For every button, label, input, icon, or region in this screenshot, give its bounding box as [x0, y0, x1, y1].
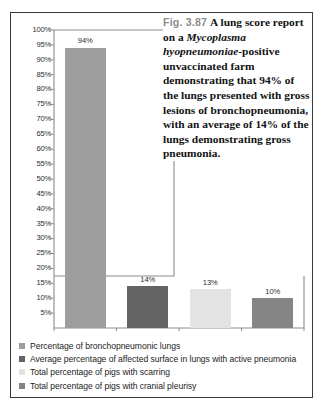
bar-value-label: 10%: [253, 287, 293, 296]
legend-item: Average percentage of affected surface i…: [19, 352, 309, 365]
legend-label: Percentage of bronchopneumonic lungs: [30, 341, 180, 351]
chart-legend: Percentage of bronchopneumonic lungsAver…: [19, 339, 309, 393]
bar-chart: 100%95%90%85%80%75%70%65%60%55%50%45%40%…: [11, 13, 314, 331]
legend-swatch-icon: [19, 383, 25, 389]
bar-value-label: 14%: [128, 275, 168, 284]
legend-item: Percentage of bronchopneumonic lungs: [19, 339, 309, 352]
bar: [252, 298, 293, 328]
bar: [127, 286, 168, 328]
legend-swatch-icon: [19, 356, 25, 362]
figure-number: Fig. 3.87: [163, 16, 207, 28]
legend-label: Total percentage of pigs with scarring: [30, 367, 170, 377]
bar-value-label: 94%: [65, 36, 105, 45]
bar-value-label: 13%: [190, 278, 230, 287]
legend-swatch-icon: [19, 369, 25, 375]
legend-item: Total percentage of pigs with cranial pl…: [19, 379, 309, 392]
legend-item: Total percentage of pigs with scarring: [19, 366, 309, 379]
legend-swatch-icon: [19, 343, 25, 349]
bar: [190, 289, 231, 328]
caption-text-after-species: -positive unvaccinated farm demonstratin…: [163, 45, 309, 159]
legend-label: Average percentage of affected surface i…: [30, 354, 296, 364]
bar: [65, 48, 106, 328]
figure-container: 100%95%90%85%80%75%70%65%60%55%50%45%40%…: [10, 12, 313, 398]
figure-caption: Fig. 3.87 A lung score report on a Mycop…: [163, 15, 311, 161]
legend-label: Total percentage of pigs with cranial pl…: [30, 381, 196, 391]
